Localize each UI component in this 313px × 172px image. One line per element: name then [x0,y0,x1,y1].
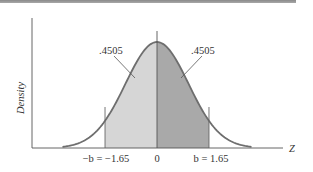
area-label-right: .4505 [191,45,215,56]
tick-label-zero: 0 [154,153,159,164]
shaded-area-left [105,42,157,148]
x-axis-label: Z [289,143,295,154]
y-axis-label: Density [15,82,26,115]
shaded-area-right [157,42,209,148]
tick-label-lower: −b = −1.65 [83,153,130,164]
tick-label-upper: b = 1.65 [194,153,229,164]
leader-line-right [181,56,202,78]
leader-line-left [114,56,135,78]
normal-density-chart: .4505 .4505 Density Z −b = −1.65 0 b = 1… [0,0,313,172]
area-label-left: .4505 [99,45,123,56]
